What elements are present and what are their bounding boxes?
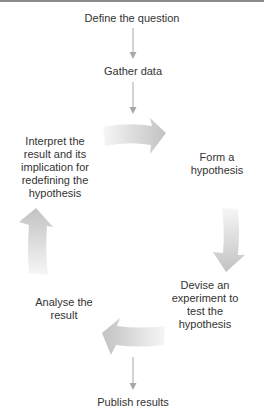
arrow-define-to-gather	[130, 28, 137, 59]
cycle-arrow-down	[213, 208, 245, 272]
node-gather-data: Gather data	[83, 65, 183, 78]
cycle-arrow-right	[103, 118, 166, 154]
node-devise-experiment: Devise an experiment to test the hypothe…	[160, 279, 250, 331]
node-define-question: Define the question	[67, 12, 197, 25]
cycle-arrow-up	[19, 208, 53, 275]
node-form-hypothesis: Form a hypothesis	[177, 151, 257, 177]
node-analyse-result: Analyse the result	[19, 296, 109, 322]
arrow-cycle-to-publish	[130, 357, 137, 390]
node-interpret-result: Interpret the result and its implication…	[5, 135, 105, 200]
cycle-arrow-left	[102, 318, 165, 355]
diagram-canvas	[0, 0, 264, 418]
arrow-gather-to-cycle	[130, 82, 137, 114]
node-publish-results: Publish results	[78, 396, 188, 409]
